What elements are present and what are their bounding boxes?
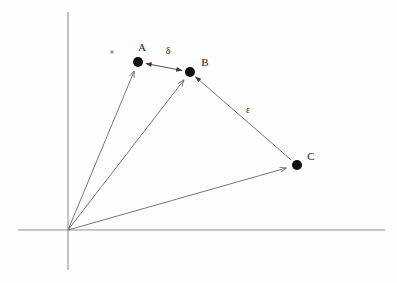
diagram-canvas: A B C δ ε xyxy=(0,0,397,283)
point-b-label: B xyxy=(201,57,208,68)
position-vector-oa xyxy=(68,71,134,230)
point-a-label: A xyxy=(138,42,146,53)
difference-vectors-group xyxy=(146,64,291,160)
vector-delta-label: δ xyxy=(166,46,171,56)
point-b-dot xyxy=(185,67,195,77)
difference-vector-delta xyxy=(146,64,182,71)
difference-vector-epsilon xyxy=(195,77,291,160)
point-c-label: C xyxy=(307,151,314,162)
vector-epsilon-label: ε xyxy=(246,105,250,115)
position-vector-oc xyxy=(68,168,286,230)
scan-speck-icon xyxy=(111,51,114,54)
vector-diagram-svg xyxy=(0,0,397,283)
position-vectors-group xyxy=(68,71,286,230)
point-a-dot xyxy=(133,57,143,67)
point-c-dot xyxy=(292,160,302,170)
position-vector-ob xyxy=(68,80,184,230)
axes-group xyxy=(18,12,385,270)
